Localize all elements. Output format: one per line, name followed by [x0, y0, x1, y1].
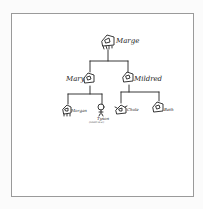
house-icon	[84, 73, 94, 83]
house-icon	[102, 35, 114, 49]
house-icon	[153, 102, 163, 112]
house-icon	[123, 72, 133, 82]
house-icon	[63, 105, 71, 116]
node-note-tyson: (small text)	[89, 122, 104, 125]
person-icon	[98, 104, 104, 116]
node-label-mary: Mary	[66, 76, 85, 83]
house-icon	[115, 105, 127, 114]
node-label-beth: Beth	[164, 108, 174, 112]
family-tree-diagram	[0, 0, 203, 209]
node-label-mildred: Mildred	[134, 76, 162, 83]
node-label-marge: Marge	[116, 38, 139, 45]
node-label-chole: Chole	[127, 108, 139, 112]
node-label-morgan: Morgan	[71, 109, 87, 113]
